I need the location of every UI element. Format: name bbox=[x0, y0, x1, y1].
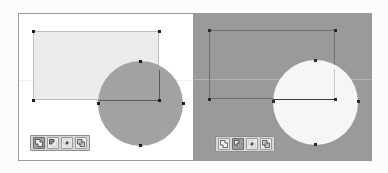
tool-intersect-button[interactable] bbox=[246, 138, 258, 150]
handle-circle-left[interactable] bbox=[272, 100, 275, 103]
handle-circle-bottom[interactable] bbox=[139, 144, 142, 147]
handle-rect-bottom-right[interactable] bbox=[334, 98, 337, 101]
shape-circle[interactable] bbox=[98, 61, 183, 146]
result-edge-horizontal bbox=[273, 99, 335, 100]
subtract-icon bbox=[49, 139, 57, 147]
tool-unite-button[interactable] bbox=[218, 138, 230, 150]
handle-rect-top-left[interactable] bbox=[208, 29, 211, 32]
handle-rect-bottom-left[interactable] bbox=[208, 98, 211, 101]
exclude-icon bbox=[262, 140, 270, 148]
result-edge-vertical bbox=[334, 69, 335, 100]
boolean-operations-toolbar[interactable] bbox=[215, 136, 275, 152]
panel-before bbox=[18, 13, 194, 161]
handle-rect-bottom-right[interactable] bbox=[158, 99, 161, 102]
tool-exclude-button[interactable] bbox=[260, 138, 272, 150]
exclude-icon bbox=[77, 139, 85, 147]
tool-unite-button[interactable] bbox=[33, 137, 45, 149]
selection-edge-horizontal bbox=[98, 100, 160, 101]
panel-after bbox=[194, 13, 372, 161]
union-icon bbox=[220, 140, 228, 148]
tool-subtract-button[interactable] bbox=[47, 137, 59, 149]
union-icon bbox=[35, 139, 43, 147]
handle-circle-bottom[interactable] bbox=[314, 143, 317, 146]
handle-rect-top-right[interactable] bbox=[334, 29, 337, 32]
selection-edge-vertical bbox=[159, 70, 160, 101]
handle-rect-bottom-left[interactable] bbox=[32, 99, 35, 102]
intersect-icon bbox=[63, 139, 71, 147]
subtract-icon bbox=[234, 140, 242, 148]
handle-rect-top-left[interactable] bbox=[32, 30, 35, 33]
handle-circle-right[interactable] bbox=[357, 100, 360, 103]
intersect-icon bbox=[248, 140, 256, 148]
handle-circle-left[interactable] bbox=[97, 102, 100, 105]
handle-circle-top[interactable] bbox=[139, 60, 142, 63]
boolean-operations-toolbar[interactable] bbox=[30, 135, 90, 151]
handle-circle-right[interactable] bbox=[182, 102, 185, 105]
tool-exclude-button[interactable] bbox=[75, 137, 87, 149]
shape-circle[interactable] bbox=[273, 60, 358, 145]
handle-rect-top-right[interactable] bbox=[158, 30, 161, 33]
tool-subtract-button[interactable] bbox=[232, 138, 244, 150]
tool-intersect-button[interactable] bbox=[61, 137, 73, 149]
comparison-stage bbox=[0, 0, 388, 173]
handle-circle-top[interactable] bbox=[314, 59, 317, 62]
